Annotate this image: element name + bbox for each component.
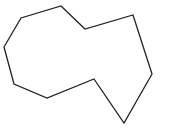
diagram-canvas <box>0 0 169 130</box>
irregular-polygon <box>4 6 152 123</box>
